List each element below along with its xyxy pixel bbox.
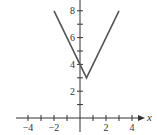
x-axis-arrow-icon <box>138 115 145 121</box>
y-tick-label: 2 <box>70 86 75 97</box>
x-axis-label: x <box>146 111 152 123</box>
absolute-value-chart: −4−2242468 x <box>0 0 157 135</box>
y-tick-label: 8 <box>70 5 75 16</box>
x-tick-label: 2 <box>104 122 109 133</box>
y-tick-label: 6 <box>70 32 75 43</box>
y-tick-label: 4 <box>70 59 75 70</box>
v-shaped-line <box>54 11 119 78</box>
x-tick-label: −4 <box>23 122 34 133</box>
x-tick-label: 4 <box>130 122 135 133</box>
x-tick-label: −2 <box>49 122 60 133</box>
